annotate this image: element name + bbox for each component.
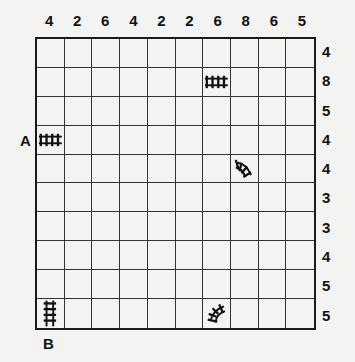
grid-cell[interactable] [37, 299, 65, 328]
grid-cell[interactable] [286, 212, 314, 241]
grid-cell[interactable] [286, 270, 314, 299]
grid-cell[interactable] [203, 155, 231, 184]
grid-cell[interactable] [259, 39, 287, 68]
grid-cell[interactable] [231, 270, 259, 299]
grid-cell[interactable] [65, 155, 93, 184]
grid-cell[interactable] [92, 183, 120, 212]
grid-cell[interactable] [231, 155, 259, 184]
grid-cell[interactable] [176, 39, 204, 68]
grid-cell[interactable] [120, 241, 148, 270]
grid-cell[interactable] [286, 241, 314, 270]
grid-cell[interactable] [286, 97, 314, 126]
grid-cell[interactable] [203, 183, 231, 212]
grid-cell[interactable] [259, 126, 287, 155]
grid-cell[interactable] [286, 68, 314, 97]
grid-cell[interactable] [37, 126, 65, 155]
grid-cell[interactable] [65, 299, 93, 328]
grid-cell[interactable] [148, 299, 176, 328]
grid-cell[interactable] [259, 270, 287, 299]
grid-cell[interactable] [148, 212, 176, 241]
grid-cell[interactable] [176, 183, 204, 212]
grid-cell[interactable] [37, 212, 65, 241]
grid-cell[interactable] [259, 155, 287, 184]
grid-cell[interactable] [65, 183, 93, 212]
grid-cell[interactable] [176, 155, 204, 184]
grid-cell[interactable] [37, 155, 65, 184]
grid-cell[interactable] [92, 299, 120, 328]
grid-cell[interactable] [231, 183, 259, 212]
grid-cell[interactable] [92, 241, 120, 270]
grid-cell[interactable] [176, 270, 204, 299]
grid-cell[interactable] [259, 183, 287, 212]
grid-cell[interactable] [92, 270, 120, 299]
grid-cell[interactable] [231, 241, 259, 270]
grid-cell[interactable] [148, 68, 176, 97]
grid-cell[interactable] [148, 183, 176, 212]
grid-cell[interactable] [259, 212, 287, 241]
grid-cell[interactable] [148, 39, 176, 68]
grid-cell[interactable] [259, 68, 287, 97]
grid-cell[interactable] [92, 126, 120, 155]
grid-cell[interactable] [37, 270, 65, 299]
grid-cell[interactable] [259, 97, 287, 126]
grid-cell[interactable] [231, 68, 259, 97]
grid-cell[interactable] [120, 299, 148, 328]
grid-cell[interactable] [148, 270, 176, 299]
grid-cell[interactable] [203, 270, 231, 299]
grid-cell[interactable] [120, 183, 148, 212]
grid-cell[interactable] [203, 126, 231, 155]
grid-cell[interactable] [65, 126, 93, 155]
grid-cell[interactable] [203, 68, 231, 97]
grid-cell[interactable] [203, 241, 231, 270]
grid-cell[interactable] [65, 97, 93, 126]
grid-cell[interactable] [92, 212, 120, 241]
grid-cell[interactable] [286, 183, 314, 212]
grid-cell[interactable] [176, 97, 204, 126]
grid-cell[interactable] [65, 241, 93, 270]
grid-cell[interactable] [231, 97, 259, 126]
grid-cell[interactable] [37, 97, 65, 126]
grid-cell[interactable] [120, 155, 148, 184]
grid-cell[interactable] [231, 126, 259, 155]
grid-cell[interactable] [259, 241, 287, 270]
grid-cell[interactable] [176, 68, 204, 97]
grid-cell[interactable] [92, 39, 120, 68]
grid-cell[interactable] [92, 97, 120, 126]
grid-cell[interactable] [92, 68, 120, 97]
grid-cell[interactable] [148, 155, 176, 184]
grid-cell[interactable] [286, 155, 314, 184]
grid-cell[interactable] [65, 270, 93, 299]
grid-cell[interactable] [231, 212, 259, 241]
grid-cell[interactable] [176, 212, 204, 241]
grid-cell[interactable] [120, 39, 148, 68]
grid-cell[interactable] [148, 126, 176, 155]
grid-cell[interactable] [231, 39, 259, 68]
grid-cell[interactable] [37, 183, 65, 212]
grid-cell[interactable] [37, 39, 65, 68]
grid-cell[interactable] [120, 212, 148, 241]
grid-cell[interactable] [120, 68, 148, 97]
grid-cell[interactable] [203, 39, 231, 68]
grid-cell[interactable] [286, 39, 314, 68]
grid-cell[interactable] [231, 299, 259, 328]
grid-cell[interactable] [65, 68, 93, 97]
grid-cell[interactable] [120, 126, 148, 155]
grid-cell[interactable] [37, 241, 65, 270]
grid-cell[interactable] [92, 155, 120, 184]
grid-cell[interactable] [65, 39, 93, 68]
grid-cell[interactable] [65, 212, 93, 241]
grid-cell[interactable] [148, 241, 176, 270]
grid-cell[interactable] [176, 241, 204, 270]
grid-cell[interactable] [286, 299, 314, 328]
grid-cell[interactable] [148, 97, 176, 126]
grid-cell[interactable] [176, 126, 204, 155]
grid-cell[interactable] [203, 212, 231, 241]
grid-cell[interactable] [120, 270, 148, 299]
grid-cell[interactable] [259, 299, 287, 328]
grid-cell[interactable] [203, 97, 231, 126]
grid-cell[interactable] [286, 126, 314, 155]
grid-cell[interactable] [203, 299, 231, 328]
grid-cell[interactable] [37, 68, 65, 97]
grid-cell[interactable] [120, 97, 148, 126]
grid-cell[interactable] [176, 299, 204, 328]
